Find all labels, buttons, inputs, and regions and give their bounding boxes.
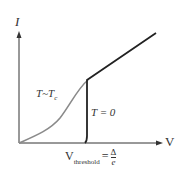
label-t-near-tc: T~Tc <box>36 87 57 102</box>
x-axis-label: V <box>165 134 174 150</box>
threshold-label: Vthreshold=Δe <box>65 148 116 167</box>
curve-t-zero <box>85 33 156 143</box>
x-axis-arrow-icon <box>156 141 163 146</box>
label-t-zero: T = 0 <box>91 106 115 118</box>
y-axis-label: I <box>15 14 19 30</box>
y-axis-arrow-icon <box>17 31 22 38</box>
